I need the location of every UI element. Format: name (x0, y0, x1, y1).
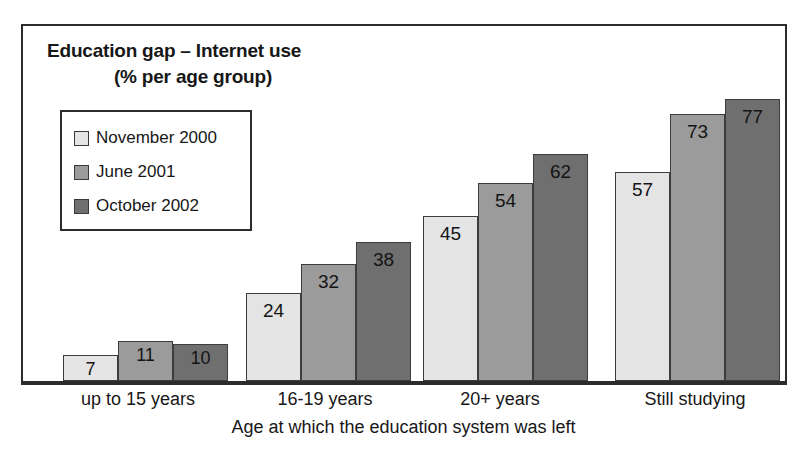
bar-20-plus-years-november-2000[interactable]: 45 (423, 216, 478, 381)
bar-group-still-studying: 57 73 77 (615, 41, 780, 381)
bar-value: 57 (632, 173, 653, 199)
bar-value: 54 (495, 184, 516, 210)
x-axis-label-20-plus-years: 20+ years (410, 389, 590, 410)
plot-area: 7 11 10 24 32 38 (23, 26, 785, 383)
bar-value: 77 (742, 100, 763, 126)
bar-value: 32 (318, 265, 339, 291)
bar-16-19-years-november-2000[interactable]: 24 (246, 293, 301, 381)
bar-group-up-to-15-years: 7 11 10 (63, 41, 228, 381)
chart-frame: Education gap – Internet use (% per age … (21, 24, 787, 385)
bar-up-to-15-years-october-2002[interactable]: 10 (173, 344, 228, 381)
x-axis-label-still-studying: Still studying (600, 389, 790, 410)
bar-value: 62 (550, 155, 571, 181)
bar-16-19-years-october-2002[interactable]: 38 (356, 242, 411, 381)
x-axis-title: Age at which the education system was le… (0, 417, 807, 438)
bar-value: 73 (687, 115, 708, 141)
bar-value: 7 (85, 356, 95, 378)
bar-value: 38 (373, 243, 394, 269)
x-axis-label-16-19-years: 16-19 years (230, 389, 420, 410)
x-axis-baseline (23, 381, 785, 383)
bar-still-studying-june-2001[interactable]: 73 (670, 114, 725, 381)
bar-still-studying-october-2002[interactable]: 77 (725, 99, 780, 381)
bar-value: 45 (440, 217, 461, 243)
bar-group-16-19-years: 24 32 38 (246, 41, 411, 381)
bar-group-20-plus-years: 45 54 62 (423, 41, 588, 381)
x-axis-label-up-to-15-years: up to 15 years (38, 389, 238, 410)
bar-up-to-15-years-november-2000[interactable]: 7 (63, 355, 118, 381)
chart-root: Education gap – Internet use (% per age … (0, 0, 807, 449)
bar-still-studying-november-2000[interactable]: 57 (615, 172, 670, 381)
bar-value: 24 (263, 294, 284, 320)
bar-16-19-years-june-2001[interactable]: 32 (301, 264, 356, 381)
bar-value: 10 (190, 345, 210, 367)
bar-20-plus-years-october-2002[interactable]: 62 (533, 154, 588, 381)
bar-value: 11 (136, 342, 155, 364)
bar-20-plus-years-june-2001[interactable]: 54 (478, 183, 533, 381)
bar-up-to-15-years-june-2001[interactable]: 11 (118, 341, 173, 381)
